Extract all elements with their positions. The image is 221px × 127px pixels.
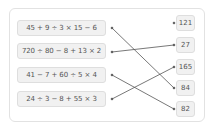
answer-box-1[interactable]: 121 [176, 15, 195, 31]
answer-box-4[interactable]: 84 [176, 80, 195, 96]
answer-box-2[interactable]: 27 [176, 37, 195, 53]
expression-box-2[interactable]: 720 ÷ 80 − 8 + 13 × 2 [17, 43, 106, 59]
expression-box-3[interactable]: 41 − 7 + 60 ÷ 5 × 4 [17, 67, 106, 83]
expression-box-1[interactable]: 45 + 9 ÷ 3 × 15 − 6 [17, 20, 106, 36]
expression-box-4[interactable]: 24 ÷ 3 − 8 + 55 × 3 [17, 91, 106, 107]
answer-box-3[interactable]: 165 [176, 59, 195, 75]
answer-box-5[interactable]: 82 [176, 101, 195, 117]
